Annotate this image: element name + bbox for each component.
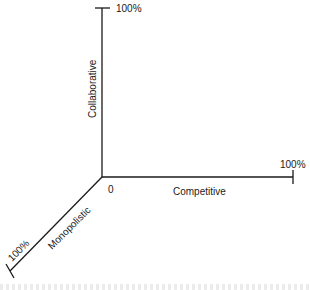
monopolistic-max-label: 100% (6, 237, 32, 263)
monopolistic-axis (10, 177, 102, 271)
three-axis-diagram: 100% Collaborative 100% Competitive 0 10… (0, 0, 310, 290)
competitive-max-label: 100% (280, 159, 306, 170)
collaborative-axis-label: Collaborative (87, 59, 98, 118)
origin-label: 0 (108, 184, 114, 195)
competitive-axis-label: Competitive (173, 186, 226, 197)
collaborative-max-label: 100% (116, 3, 142, 14)
monopolistic-max-tick (6, 264, 14, 278)
cut-off-caption-strip (0, 284, 310, 290)
